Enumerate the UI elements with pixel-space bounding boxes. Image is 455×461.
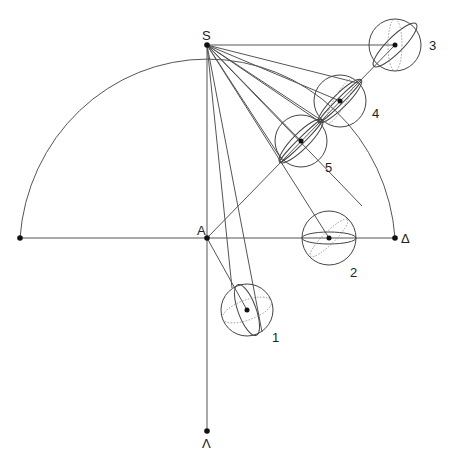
diagram-canvas: S A Δ Λ 3 4 5 2 1 <box>0 0 455 461</box>
label-sphere-4: 4 <box>372 106 379 121</box>
ray-s-to-1a <box>207 45 232 288</box>
label-s: S <box>202 28 211 43</box>
point-west <box>17 235 23 241</box>
label-lambda: Λ <box>202 436 211 451</box>
point-lambda <box>204 428 210 434</box>
ray-a-to-1 <box>207 238 247 310</box>
label-a: A <box>197 223 206 238</box>
label-delta: Δ <box>401 231 410 246</box>
point-delta <box>392 235 398 241</box>
sphere-1 <box>219 282 275 339</box>
label-sphere-2: 2 <box>350 265 357 280</box>
label-sphere-5: 5 <box>325 160 332 175</box>
label-sphere-1: 1 <box>272 330 279 345</box>
label-sphere-3: 3 <box>429 38 436 53</box>
point-s <box>204 42 210 48</box>
ray-s-to-5d <box>207 45 362 206</box>
ray-s-to-5a <box>207 45 320 122</box>
